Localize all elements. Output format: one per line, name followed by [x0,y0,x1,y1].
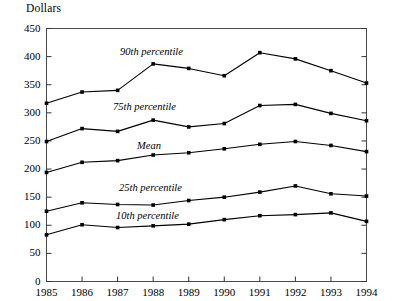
y-tick-label: 350 [11,79,41,90]
y-tick-label: 200 [11,163,41,174]
y-axis-ticks-right [362,29,367,282]
chart-container: Dollars 050100150200250300350400450 1985… [0,0,396,301]
series-label: 90th percentile [120,46,183,57]
x-tick-label: 1994 [345,287,389,298]
series-label: 25th percentile [119,182,182,193]
x-axis-ticks [82,277,331,282]
y-tick-label: 250 [11,135,41,146]
y-tick-label: 0 [11,276,41,287]
y-tick-label: 150 [11,191,41,202]
y-tick-label: 300 [11,107,41,118]
y-tick-label: 400 [11,51,41,62]
series-label: Mean [137,140,161,151]
y-tick-label: 50 [11,247,41,258]
y-axis-ticks [47,29,52,282]
y-tick-label: 450 [11,23,41,34]
data-series-group [45,51,369,237]
chart-plot-svg [0,0,396,301]
series-label: 10th percentile [116,210,179,221]
series-label: 75th percentile [113,101,176,112]
y-tick-label: 100 [11,219,41,230]
